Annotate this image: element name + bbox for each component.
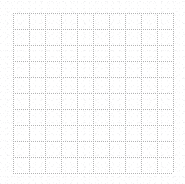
grid-line-horizontal-2 xyxy=(13,45,173,46)
grid-line-horizontal-8 xyxy=(13,141,173,142)
grid-dots xyxy=(13,77,173,78)
grid-line-horizontal-0 xyxy=(13,13,173,14)
dotted-grid xyxy=(13,13,173,173)
grid-dots xyxy=(13,157,173,158)
chart-canvas xyxy=(0,0,185,184)
grid-dots xyxy=(13,109,173,110)
grid-dots xyxy=(13,173,173,174)
grid-line-vertical-10 xyxy=(173,13,174,173)
grid-line-horizontal-10 xyxy=(13,173,173,174)
grid-dots xyxy=(13,125,173,126)
grid-line-horizontal-7 xyxy=(13,125,173,126)
grid-dots xyxy=(13,13,173,14)
grid-line-horizontal-4 xyxy=(13,77,173,78)
grid-dots xyxy=(13,29,173,30)
grid-dots xyxy=(173,13,174,173)
grid-line-horizontal-1 xyxy=(13,29,173,30)
grid-dots xyxy=(13,93,173,94)
grid-dots xyxy=(13,45,173,46)
grid-line-horizontal-5 xyxy=(13,93,173,94)
grid-line-horizontal-3 xyxy=(13,61,173,62)
grid-line-horizontal-6 xyxy=(13,109,173,110)
grid-line-horizontal-9 xyxy=(13,157,173,158)
grid-dots xyxy=(13,61,173,62)
grid-dots xyxy=(13,141,173,142)
